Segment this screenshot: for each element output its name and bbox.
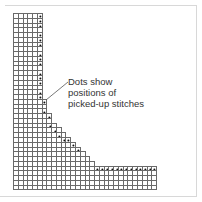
frame-bottom-border [0, 196, 197, 197]
grid-cell [151, 185, 157, 191]
frame-top-border [5, 5, 196, 6]
frame-right-border [196, 5, 197, 196]
caption-dots-explanation: Dots show positions of picked-up stitche… [68, 76, 144, 109]
